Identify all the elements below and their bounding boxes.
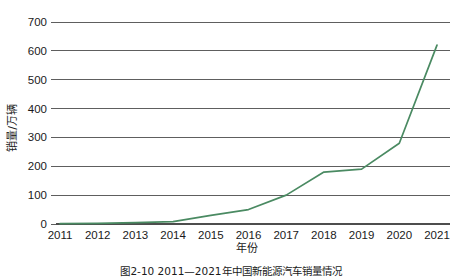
y-tick-label: 200: [28, 160, 47, 172]
x-tick-label: 2015: [198, 229, 224, 241]
chart-gridlines: [56, 22, 450, 195]
y-tick-label: 400: [28, 103, 47, 115]
x-tick-label: 2020: [387, 229, 413, 241]
y-axis-tick-labels: 0100200300400500600700: [28, 16, 47, 230]
y-tick-label: 300: [28, 131, 47, 143]
y-tick-label: 700: [28, 16, 47, 28]
y-tick-label: 100: [28, 189, 47, 201]
x-tick-label: 2012: [85, 229, 111, 241]
x-axis-tick-labels: 2011201220132014201520162017201820192020…: [48, 229, 450, 241]
x-tick-label: 2014: [160, 229, 186, 241]
x-tick-label: 2021: [424, 229, 450, 241]
y-tick-label: 0: [41, 218, 47, 230]
y-tick-label: 500: [28, 74, 47, 86]
x-tick-label: 2018: [311, 229, 337, 241]
y-tick-label: 600: [28, 45, 47, 57]
y-axis-title: 销量/万辆: [5, 104, 19, 152]
y-axis-tick-marks: [51, 22, 56, 224]
x-tick-label: 2017: [273, 229, 299, 241]
x-tick-label: 2016: [236, 229, 262, 241]
figure-caption: 图2-10 2011—2021年中国新能源汽车销量情况: [0, 263, 462, 278]
x-tick-label: 2011: [48, 229, 73, 241]
data-series-group: [60, 45, 437, 224]
x-tick-label: 2013: [123, 229, 149, 241]
x-tick-label: 2019: [349, 229, 375, 241]
x-axis-title: 年份: [236, 241, 258, 255]
data-line: [60, 45, 437, 224]
